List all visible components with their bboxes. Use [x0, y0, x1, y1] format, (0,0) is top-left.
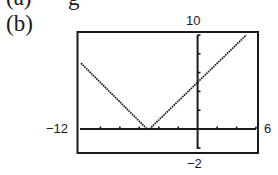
xmax-label: 6	[264, 122, 271, 135]
graph-left-branch	[81, 63, 147, 129]
graphing-calculator-window	[0, 0, 278, 175]
xmin-label: −12	[46, 122, 68, 135]
ymax-label: 10	[186, 14, 200, 27]
ymin-label: −2	[187, 157, 202, 170]
